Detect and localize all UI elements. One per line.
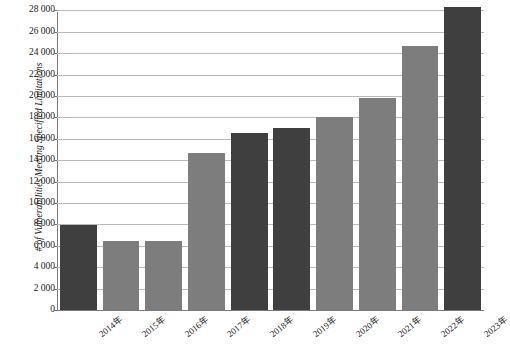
x-axis-tick-label: 2017年 bbox=[224, 313, 253, 340]
x-axis-tick-label: 2019年 bbox=[310, 313, 339, 340]
x-axis-tick-label: 2018年 bbox=[267, 313, 296, 340]
x-axis-tick-label: 2021年 bbox=[395, 313, 424, 340]
x-axis-tick-label: 2015年 bbox=[139, 313, 168, 340]
x-axis-tick-label: 2020年 bbox=[352, 313, 381, 340]
x-axis-tick-label: 2014年 bbox=[96, 313, 125, 340]
x-axis-tick-label: 2022年 bbox=[438, 313, 467, 340]
x-axis-tick-label: 2023年 bbox=[480, 313, 509, 340]
x-axis-tick-label: 2016年 bbox=[181, 313, 210, 340]
